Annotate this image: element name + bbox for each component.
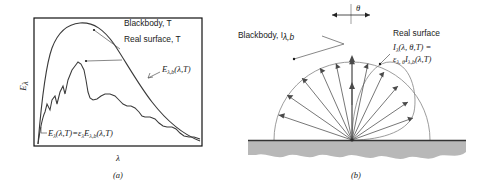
y-axis-label: Eλ <box>18 81 30 92</box>
label-blackbody-b-sub: λ,b <box>282 32 294 42</box>
annotation-real-surface-b: Real surface Iλ(λ, θ,T) = ελ, θIλ,b(λ,T) <box>379 28 441 65</box>
normal-arrows <box>349 55 355 140</box>
svg-text:Eλ(λ,T)=ελEλ,b(λ,T): Eλ(λ,T)=ελEλ,b(λ,T) <box>47 128 113 139</box>
label-blackbody-b-main: Blackbody, I <box>238 30 283 40</box>
svg-text:Eλ: Eλ <box>18 81 30 92</box>
panel-a-spectral-emission: Blackbody, T Real surface, T Eλ,b(λ,T) E… <box>0 0 232 184</box>
marker-real-surface <box>85 60 87 62</box>
marker-real-surface-b <box>379 63 381 65</box>
label-real-surface-b: Real surface <box>393 28 440 38</box>
eq-b-line2-args: (λ,T) <box>415 54 432 64</box>
marker-blackbody-b <box>293 58 295 60</box>
label-real-surface: Real surface, T <box>124 34 181 44</box>
emission-origin-point <box>350 138 353 141</box>
eq-blackbody-sub: λ,b <box>166 69 174 75</box>
panel-b-caption: (b) <box>351 170 361 180</box>
annotation-blackbody-b: Blackbody, Iλ,b <box>238 30 344 60</box>
label-blackbody: Blackbody, T <box>124 18 172 28</box>
panel-a-svg: Blackbody, T Real surface, T Eλ,b(λ,T) E… <box>0 0 232 184</box>
intensity-rays <box>279 59 414 140</box>
panel-b-directional-intensity: θ <box>232 0 481 184</box>
eq-b-line1-args: (λ, θ,T) = <box>398 42 431 52</box>
marker-blackbody <box>93 29 95 31</box>
svg-text:Iλ(λ, θ,T) =: Iλ(λ, θ,T) = <box>392 42 431 53</box>
theta-arrow-right <box>365 13 370 18</box>
eq-b-line2-sub: λ,b <box>407 59 415 65</box>
theta-symbol: θ <box>356 3 361 13</box>
panel-b-svg: θ <box>232 0 481 184</box>
x-axis-label: λ <box>115 153 120 163</box>
eq-b-line2-eps-sub: λ, θ <box>395 59 405 65</box>
ground-hatch <box>248 141 466 159</box>
eq-rhs-args: (λ,T) <box>96 128 113 138</box>
panel-a-caption: (a) <box>113 170 123 180</box>
svg-text:ελ, θIλ,b(λ,T): ελ, θIλ,b(λ,T) <box>393 54 431 65</box>
eq-blackbody-args: (λ,T) <box>174 64 191 74</box>
theta-indicator: θ <box>332 3 370 24</box>
y-axis-sub: λ <box>20 81 30 86</box>
eq-lhs-args: (λ,T) <box>56 128 73 138</box>
svg-text:Eλ,b(λ,T): Eλ,b(λ,T) <box>161 64 191 75</box>
annotation-equation: Eλ(λ,T)=ελEλ,b(λ,T) <box>41 127 113 139</box>
theta-arrow-left <box>332 13 337 18</box>
eq-rhs-sub: λ,b <box>88 133 96 139</box>
svg-text:Blackbody, Iλ,b: Blackbody, Iλ,b <box>238 30 294 42</box>
figure-container: Blackbody, T Real surface, T Eλ,b(λ,T) E… <box>0 0 481 184</box>
